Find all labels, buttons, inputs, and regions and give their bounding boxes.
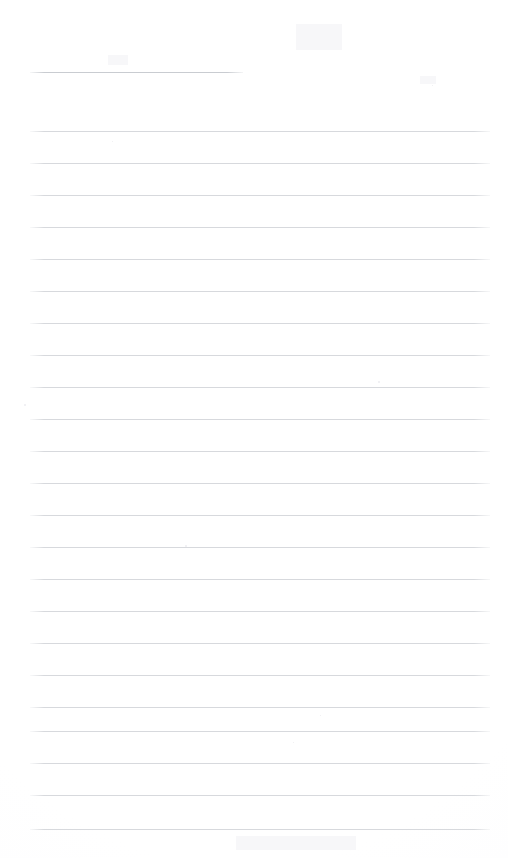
scan-smudge	[108, 55, 128, 65]
ruled-line	[30, 579, 490, 580]
scan-smudge	[236, 836, 356, 850]
ruled-line	[30, 795, 490, 796]
ruled-line	[30, 643, 490, 644]
scan-smudge	[420, 76, 436, 84]
scan-speck	[293, 742, 294, 743]
ruled-line	[30, 829, 490, 830]
ruled-line	[30, 227, 490, 228]
ruled-line	[30, 323, 490, 324]
ruled-line	[30, 131, 490, 132]
ruled-line	[30, 675, 490, 676]
scan-smudge	[296, 24, 342, 50]
scan-speck	[432, 85, 433, 86]
scanned-page: Blank Lined Page	[0, 0, 508, 858]
header-rule	[30, 72, 243, 73]
ruled-line	[30, 707, 490, 708]
ruled-line	[30, 291, 490, 292]
ruled-line	[30, 547, 490, 548]
scan-speck	[378, 381, 380, 383]
page-title: Blank Lined Page	[0, 0, 1, 1]
ruled-line	[30, 195, 490, 196]
ruled-line	[30, 387, 490, 388]
ruled-line	[30, 451, 490, 452]
scan-speck	[24, 404, 26, 406]
ruled-line	[30, 611, 490, 612]
ruled-line	[30, 259, 490, 260]
ruled-line	[30, 419, 490, 420]
ruled-line	[30, 515, 490, 516]
ruled-line	[30, 355, 490, 356]
scan-speck	[320, 715, 321, 716]
ruled-line	[30, 731, 490, 732]
ruled-line	[30, 763, 490, 764]
scan-speck	[112, 141, 113, 142]
ruled-line	[30, 163, 490, 164]
ruled-line	[30, 483, 490, 484]
paper-background	[0, 0, 508, 858]
